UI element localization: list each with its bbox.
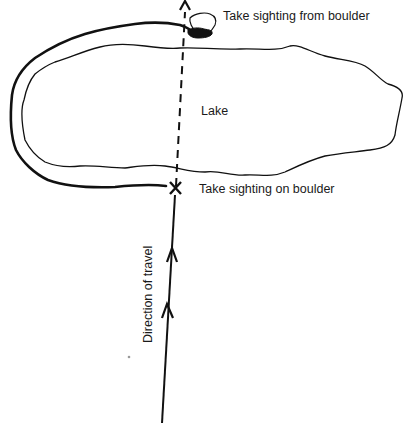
label-sighting-from-boulder: Take sighting from boulder (223, 9, 370, 23)
boulder-icon (188, 13, 216, 38)
speck-dot (128, 356, 131, 359)
label-lake: Lake (201, 104, 228, 118)
arrow-up-icon (180, 1, 190, 10)
label-sighting-on-boulder: Take sighting on boulder (199, 182, 335, 196)
label-direction-of-travel: Direction of travel (141, 246, 155, 343)
lake-detour-diagram: Take sighting from boulder Lake Take sig… (0, 0, 404, 428)
sighting-line (176, 12, 185, 186)
